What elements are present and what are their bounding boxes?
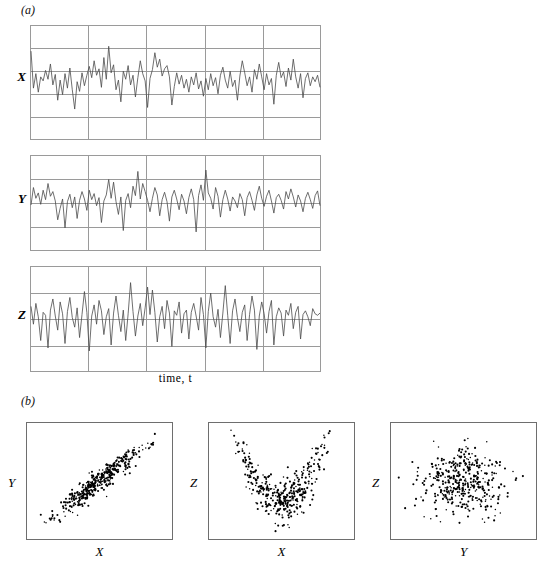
scatter-xlabel-2: Y xyxy=(390,544,537,560)
scatter-box-x-z xyxy=(208,422,355,540)
scatter-box-x-y xyxy=(26,422,173,540)
scatter-ylabel-1: Z xyxy=(190,475,197,491)
timeseries-row-z: Z xyxy=(0,266,340,372)
timeseries-plot-y xyxy=(30,155,321,251)
panel-letter-b: (b) xyxy=(21,394,35,409)
timeseries-label-z: Z xyxy=(0,307,26,323)
timeseries-label-y: Y xyxy=(0,191,26,207)
scatter-ylabel-2: Z xyxy=(372,475,379,491)
scatter-panel: (b) Y X Z X Z Y xyxy=(0,392,543,571)
timeseries-plot-x xyxy=(30,25,321,140)
panel-letter-a: (a) xyxy=(21,3,35,18)
timeseries-panel: (a) X Y Z time, t xyxy=(0,0,543,392)
scatter-xlabel-1: X xyxy=(208,544,355,560)
timeseries-plot-z xyxy=(30,266,321,372)
scatter-ylabel-0: Y xyxy=(8,475,15,491)
timeseries-row-y: Y xyxy=(0,155,340,251)
timeseries-label-x: X xyxy=(0,69,26,85)
scatter-box-y-z xyxy=(390,422,537,540)
scatter-xlabel-0: X xyxy=(26,544,173,560)
timeseries-row-x: X xyxy=(0,25,340,140)
time-axis-label: time, t xyxy=(30,372,321,384)
